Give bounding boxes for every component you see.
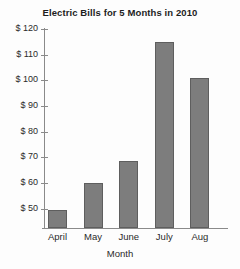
y-axis-tick-label: $ 50 [0,203,38,213]
bar-chart: Electric Bills for 5 Months in 2010 $ 12… [0,0,240,269]
y-axis-tick-label: $ 80 [0,126,38,136]
chart-title: Electric Bills for 5 Months in 2010 [0,7,240,18]
x-axis-title: Month [0,248,240,259]
y-axis-tick-label: $ 70 [0,151,38,161]
bar-may [84,183,103,228]
y-axis-line [44,28,45,229]
y-axis-tick [41,157,48,158]
y-axis-tick [41,106,48,107]
y-axis-tick [41,55,48,56]
y-axis-tick [41,183,48,184]
y-axis-tick [41,80,48,81]
y-axis-tick [41,29,48,30]
y-axis-tick-label: $ 90 [0,100,38,110]
y-axis-tick-label: $ 100 [0,74,38,84]
bar-aug [190,78,209,228]
y-axis-tick-label: $ 110 [0,49,38,59]
bar-june [119,161,138,228]
x-axis-line [42,228,228,229]
y-axis-tick-label: $ 120 [0,23,38,33]
bar-july [155,42,174,228]
y-axis-tick-label: $ 60 [0,177,38,187]
y-axis-tick [41,209,48,210]
bar-april [48,210,67,228]
x-axis-label-aug: Aug [178,231,222,242]
y-axis-tick [41,132,48,133]
